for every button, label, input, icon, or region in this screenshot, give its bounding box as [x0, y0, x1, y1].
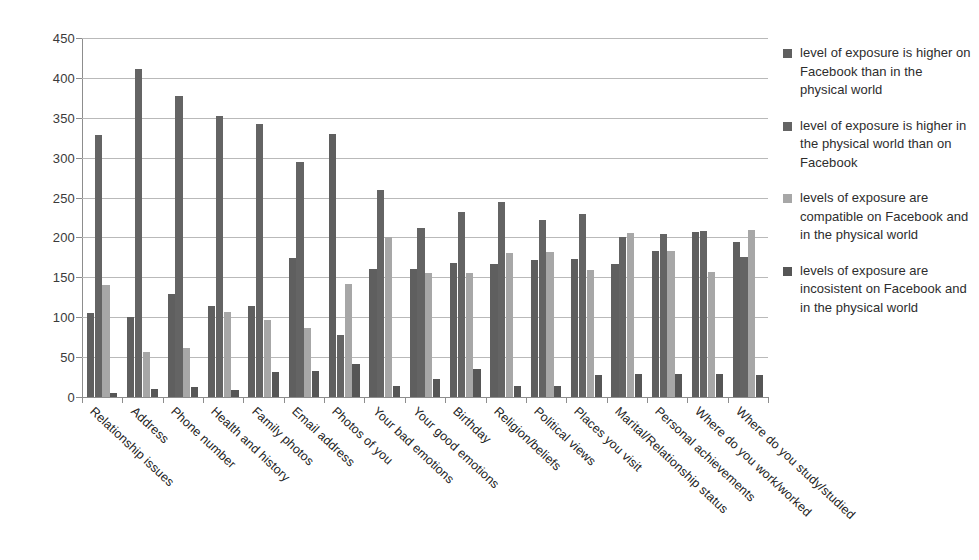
legend-item-label: level of exposure is higher in the physi…	[800, 118, 966, 170]
y-axis-tick-label: 0	[31, 391, 75, 404]
bar	[611, 264, 618, 397]
bar-group	[364, 38, 404, 397]
bar	[571, 259, 578, 397]
bar	[635, 374, 642, 397]
x-axis-tick-mark	[728, 397, 729, 403]
x-axis-line	[82, 397, 769, 398]
x-axis-tick-mark	[163, 397, 164, 403]
bar	[619, 237, 626, 397]
x-axis-tick-mark	[566, 397, 567, 403]
y-axis-tick-label: 300	[31, 152, 75, 165]
x-axis-tick-mark	[82, 397, 83, 403]
legend-swatch-icon	[783, 194, 792, 203]
bar-group	[607, 38, 647, 397]
bar	[733, 242, 740, 397]
bar	[168, 294, 175, 397]
bar-group	[122, 38, 162, 397]
bar	[304, 328, 311, 397]
bar	[498, 202, 505, 397]
bar	[708, 272, 715, 397]
bar	[191, 387, 198, 397]
bar	[312, 371, 319, 397]
bar	[546, 252, 553, 397]
legend-item-label: levels of exposure are incosistent on Fa…	[800, 263, 967, 315]
y-axis-tick-label: 50	[31, 351, 75, 364]
y-axis-tick-label: 200	[31, 231, 75, 244]
bar	[506, 253, 513, 397]
bar	[216, 116, 223, 397]
bar-group	[566, 38, 606, 397]
bar	[433, 379, 440, 397]
bar	[425, 273, 432, 397]
bar	[748, 230, 755, 397]
bar	[587, 270, 594, 397]
x-axis-tick-mark	[122, 397, 123, 403]
y-axis-tick-label: 450	[31, 32, 75, 45]
x-axis-tick-mark	[203, 397, 204, 403]
bar	[450, 263, 457, 397]
legend-item[interactable]: level of exposure is higher on Facebook …	[783, 44, 973, 100]
bar	[554, 386, 561, 397]
x-axis-tick-mark	[647, 397, 648, 403]
bar	[410, 269, 417, 397]
bar	[135, 69, 142, 397]
bar	[102, 285, 109, 397]
bar	[289, 258, 296, 397]
x-axis-tick-mark	[405, 397, 406, 403]
x-axis-tick-mark	[284, 397, 285, 403]
bar-group	[445, 38, 485, 397]
bar-group	[647, 38, 687, 397]
bar	[466, 273, 473, 397]
bar	[231, 390, 238, 397]
bar	[143, 352, 150, 397]
bar	[208, 306, 215, 397]
x-axis-tick-mark	[364, 397, 365, 403]
bar	[248, 306, 255, 397]
legend-item-label: levels of exposure are compatible on Fac…	[800, 190, 968, 242]
bar-chart: 050100150200250300350400450 Relationship…	[0, 0, 979, 560]
x-axis-tick-mark	[243, 397, 244, 403]
bar	[700, 231, 707, 397]
bar	[377, 190, 384, 397]
bar	[652, 251, 659, 397]
bar	[369, 269, 376, 397]
bar-group	[82, 38, 122, 397]
bar	[539, 220, 546, 397]
y-axis-tick-label: 350	[31, 112, 75, 125]
bar	[87, 313, 94, 397]
bar	[385, 237, 392, 397]
bar-group	[284, 38, 324, 397]
bar	[329, 134, 336, 397]
bar	[183, 348, 190, 397]
bar	[127, 317, 134, 397]
bar	[345, 284, 352, 397]
x-axis-tick-mark	[526, 397, 527, 403]
bar-group	[728, 38, 768, 397]
bar	[95, 135, 102, 397]
legend-item[interactable]: levels of exposure are incosistent on Fa…	[783, 262, 973, 318]
bar	[417, 228, 424, 397]
bar-group	[243, 38, 283, 397]
bar	[352, 364, 359, 398]
y-axis-tick-label: 100	[31, 311, 75, 324]
bar	[175, 96, 182, 397]
bar	[716, 374, 723, 397]
bar	[531, 260, 538, 397]
bar-group	[526, 38, 566, 397]
bar	[256, 124, 263, 397]
bar	[151, 389, 158, 397]
bar	[756, 375, 763, 397]
bar	[264, 320, 271, 397]
legend-item-label: level of exposure is higher on Facebook …	[800, 45, 971, 97]
y-axis-tick-label: 400	[31, 72, 75, 85]
bar-group	[486, 38, 526, 397]
bar-group	[687, 38, 727, 397]
legend-item[interactable]: level of exposure is higher in the physi…	[783, 117, 973, 173]
bar	[667, 251, 674, 397]
x-axis-tick-mark	[607, 397, 608, 403]
legend-item[interactable]: levels of exposure are compatible on Fac…	[783, 189, 973, 245]
bar	[514, 386, 521, 397]
x-axis-tick-mark	[324, 397, 325, 403]
bar-group	[324, 38, 364, 397]
y-axis-tick-label: 250	[31, 192, 75, 205]
